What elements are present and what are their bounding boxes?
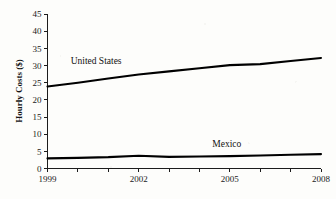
y-tick-label: 25 <box>33 78 43 88</box>
y-tick-label: 35 <box>33 44 43 54</box>
y-tick-label: 10 <box>33 129 43 139</box>
y-tick-label: 15 <box>33 112 43 122</box>
x-axis-ticks <box>48 169 322 173</box>
chart-figure: 051015202530354045 Hourly Costs ($) 1999… <box>0 0 336 199</box>
y-tick-label: 5 <box>37 147 42 157</box>
x-axis-tick-labels: 1999200220052008 <box>39 174 331 184</box>
line-chart: 051015202530354045 Hourly Costs ($) 1999… <box>0 0 336 199</box>
y-axis-tick-labels: 051015202530354045 <box>33 9 43 174</box>
x-axis: 1999200220052008 <box>39 169 331 184</box>
y-tick-label: 0 <box>37 164 42 174</box>
series-label-mexico: Mexico <box>212 139 241 149</box>
x-tick-label: 1999 <box>39 174 58 184</box>
y-axis-title: Hourly Costs ($) <box>14 59 24 123</box>
series-label-united-states: United States <box>71 56 122 66</box>
y-tick-label: 40 <box>33 26 43 36</box>
x-tick-label: 2008 <box>312 174 331 184</box>
y-tick-label: 20 <box>33 95 43 105</box>
series-annotations: United States Mexico <box>71 56 242 149</box>
series-line-mexico <box>48 154 322 158</box>
y-tick-label: 45 <box>33 9 43 19</box>
x-tick-label: 2002 <box>130 174 148 184</box>
y-axis: 051015202530354045 Hourly Costs ($) <box>14 9 48 174</box>
y-axis-ticks <box>44 14 48 169</box>
plot-area <box>48 58 322 158</box>
x-tick-label: 2005 <box>221 174 240 184</box>
y-tick-label: 30 <box>33 61 43 71</box>
